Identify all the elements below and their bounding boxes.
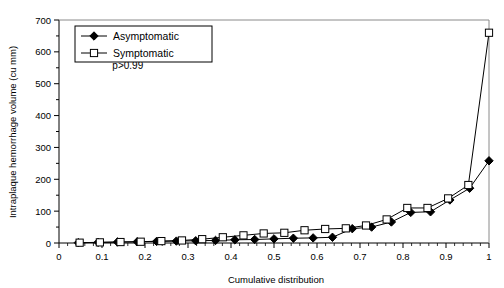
x-tick-label: 0.1 — [95, 251, 108, 262]
data-point-marker-square — [199, 236, 206, 243]
y-tick-label: 400 — [35, 110, 51, 121]
data-point-marker-square — [383, 216, 390, 223]
data-point-marker-square — [424, 204, 431, 211]
x-tick-label: 0.2 — [138, 251, 151, 262]
chart-legend: AsymptomaticSymptomatic — [75, 26, 212, 62]
y-tick-label: 600 — [35, 46, 51, 57]
x-tick-label: 0.4 — [224, 251, 237, 262]
x-tick-label: 0.6 — [310, 251, 323, 262]
data-point-marker-square — [178, 237, 185, 244]
y-tick-label: 200 — [35, 174, 51, 185]
data-point-marker-square — [445, 195, 452, 202]
x-tick-label: 0.5 — [267, 251, 280, 262]
y-tick-label: 0 — [46, 238, 51, 249]
data-point-marker-square — [137, 238, 144, 245]
data-point-marker-square — [281, 229, 288, 236]
chart-container: Intraplaque hemorrhage volume (cu mm) 01… — [0, 0, 504, 288]
intraplaque-hemorrhage-cumulative-distribution-chart: Intraplaque hemorrhage volume (cu mm) 01… — [0, 0, 504, 288]
x-axis-title-label: Cumulative distribution — [228, 274, 324, 285]
data-point-marker-square — [322, 225, 329, 232]
legend-label: Symptomatic — [113, 47, 174, 59]
data-point-marker-square — [76, 239, 83, 246]
y-tick-label: 300 — [35, 142, 51, 153]
x-tick-label: 0.7 — [353, 251, 366, 262]
data-point-marker-square — [404, 204, 411, 211]
data-point-marker-square — [362, 222, 369, 229]
data-point-marker-square — [260, 230, 267, 237]
y-axis-title-label: Intraplaque hemorrhage volume (cu mm) — [7, 46, 18, 218]
y-tick-label: 500 — [35, 78, 51, 89]
x-tick-label: 1 — [486, 251, 491, 262]
data-point-marker-square — [301, 227, 308, 234]
data-point-marker-square — [158, 237, 165, 244]
data-point-marker-square — [117, 238, 124, 245]
legend-label: Asymptomatic — [113, 30, 179, 42]
x-tick-label: 0.9 — [439, 251, 452, 262]
data-point-marker-square — [240, 232, 247, 239]
data-point-marker-square — [342, 225, 349, 232]
x-tick-label: 0.8 — [396, 251, 409, 262]
y-axis-title: Intraplaque hemorrhage volume (cu mm) — [7, 46, 18, 218]
y-tick-label: 100 — [35, 206, 51, 217]
data-point-marker-square — [96, 239, 103, 246]
data-point-marker-square — [465, 181, 472, 188]
x-tick-label: 0.3 — [181, 251, 194, 262]
data-point-marker-square — [485, 29, 492, 36]
y-tick-label: 700 — [35, 15, 51, 26]
x-tick-label: 0 — [56, 251, 61, 262]
data-point-marker-square — [90, 49, 97, 56]
data-point-marker-square — [219, 234, 226, 241]
